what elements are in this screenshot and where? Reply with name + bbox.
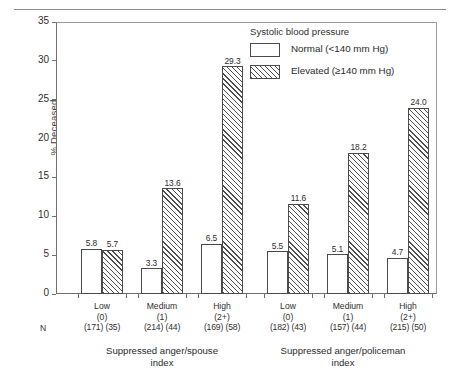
x-tick <box>198 294 199 298</box>
y-tick-label: 25 <box>38 93 49 104</box>
legend-title: Systolic blood pressure <box>250 26 349 37</box>
bar-normal-2 <box>141 268 162 294</box>
legend-label-elevated: Elevated (≥140 mm Hg) <box>291 65 394 76</box>
group-title-line1: Suppressed anger/policeman <box>281 345 406 356</box>
group-title-line2: index <box>332 357 355 368</box>
bar-elevated-3 <box>222 66 243 294</box>
bar-value-normal-2: 3.3 <box>138 258 165 268</box>
y-tick-label: 5 <box>43 248 49 259</box>
legend-swatch-normal-icon <box>250 43 280 57</box>
bar-value-normal-3: 6.5 <box>198 233 225 243</box>
x-category-counts: (215) (50) <box>368 322 448 333</box>
bar-normal-3 <box>201 244 222 295</box>
y-tick-label: 35 <box>38 15 49 26</box>
group-title-policeman: Suppressed anger/policeman index <box>248 345 438 368</box>
bar-value-elevated-2: 13.6 <box>158 178 187 188</box>
bar-elevated-1 <box>102 250 123 294</box>
legend-label-normal: Normal (<140 mm Hg) <box>291 43 388 54</box>
y-tick-label: 10 <box>38 209 49 220</box>
bar-elevated-2 <box>162 188 183 294</box>
y-tick-label: 30 <box>38 54 49 65</box>
legend: Systolic blood pressure Normal (<140 mm … <box>232 26 432 88</box>
y-tick-label: 0 <box>43 287 49 298</box>
bar-value-normal-5: 5.1 <box>324 244 351 254</box>
x-category-level: High <box>368 301 448 312</box>
bar-value-normal-6: 4.7 <box>384 247 411 257</box>
bar-value-normal-4: 5.5 <box>264 241 291 251</box>
bar-elevated-4 <box>288 204 309 294</box>
legend-swatch-elevated-icon <box>250 65 280 79</box>
bar-value-elevated-5: 18.2 <box>344 142 373 152</box>
top-rule-divider <box>14 9 446 10</box>
x-tick <box>78 294 79 298</box>
bar-normal-4 <box>267 251 288 294</box>
y-tick-label: 15 <box>38 170 49 181</box>
group-title-line1: Suppressed anger/spouse <box>106 345 218 356</box>
bar-normal-1 <box>81 249 102 294</box>
x-tick <box>186 294 187 298</box>
x-category-6: High (2+) (215) (50) <box>368 301 448 333</box>
y-tick-label: 20 <box>38 132 49 143</box>
bar-value-elevated-6: 24.0 <box>404 97 433 107</box>
x-tick <box>138 294 139 298</box>
x-tick <box>372 294 373 298</box>
bar-elevated-6 <box>408 108 429 295</box>
group-title-spouse: Suppressed anger/spouse index <box>72 345 252 368</box>
x-tick <box>312 294 313 298</box>
bar-normal-5 <box>327 254 348 294</box>
n-row-marker: N <box>40 323 46 333</box>
bar-normal-6 <box>387 258 408 295</box>
x-tick <box>432 294 433 298</box>
x-tick <box>126 294 127 298</box>
bar-elevated-5 <box>348 153 369 294</box>
group-title-line2: index <box>151 357 174 368</box>
bar-value-elevated-1: 5.7 <box>99 239 126 249</box>
x-tick <box>246 294 247 298</box>
figure: % Deceased 0 5 10 15 20 25 30 <box>0 0 453 382</box>
x-tick <box>324 294 325 298</box>
x-category-score: (2+) <box>368 312 448 323</box>
x-tick <box>264 294 265 298</box>
bar-value-elevated-4: 11.6 <box>284 193 313 203</box>
x-tick <box>384 294 385 298</box>
